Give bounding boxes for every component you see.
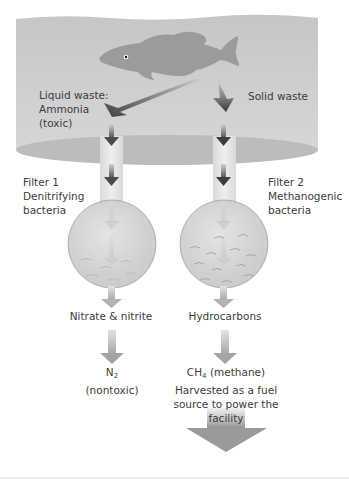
methane-note-line3: facility [173, 411, 278, 425]
liquid-waste-label-line2: Ammonia [39, 102, 109, 116]
n2-label: N2 (nontoxic) [85, 365, 138, 397]
n2-note: (nontoxic) [85, 383, 138, 397]
hydrocarbons-label: Hydrocarbons [188, 309, 261, 323]
right-to-ch4-arrow [213, 330, 237, 364]
filter-2-title: Filter 2 [268, 175, 342, 189]
filter-2-bacteria-type: Methanogenic [268, 189, 342, 203]
methane-note-line1: Harvested as a fuel [173, 383, 278, 397]
nitrate-nitrite-label: Nitrate & nitrite [70, 309, 153, 323]
bottom-divider [0, 477, 349, 479]
ch4-formula: CH4 (methane) [173, 365, 278, 383]
filter-2-circle [180, 200, 268, 288]
filter-1-title: Filter 1 [23, 175, 84, 189]
filter-1-bacteria-word: bacteria [23, 203, 84, 217]
left-to-n2-arrow [100, 330, 124, 364]
filter-2-label: Filter 2 Methanogenic bacteria [268, 175, 342, 217]
right-output-arrow [213, 286, 234, 308]
methane-note-line2: source to power the [173, 397, 278, 411]
filter-1-bacteria-type: Denitrifying [23, 189, 84, 203]
filter-2-bacteria-word: bacteria [268, 203, 342, 217]
n2-formula: N2 [85, 365, 138, 383]
filter-1-label: Filter 1 Denitrifying bacteria [23, 175, 84, 217]
solid-waste-label: Solid waste [248, 89, 308, 103]
diagram-canvas: Liquid waste: Ammonia (toxic) Solid wast… [0, 0, 349, 480]
liquid-waste-label-line3: (toxic) [39, 116, 109, 130]
liquid-waste-label: Liquid waste: Ammonia (toxic) [39, 88, 109, 130]
methane-label: CH4 (methane) Harvested as a fuel source… [173, 365, 278, 425]
liquid-waste-label-line1: Liquid waste: [39, 88, 109, 102]
left-output-arrow [101, 286, 122, 308]
